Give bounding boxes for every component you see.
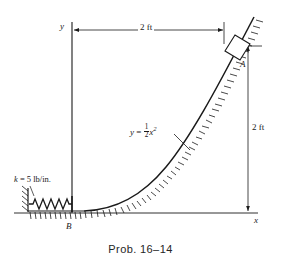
figure-container: y x A B 2 ft 2 ft y = 1 2 x2 k = 5 lb/in… <box>0 0 281 269</box>
point-label-b: B <box>66 222 72 231</box>
vertical-dimension-label: 2 ft <box>250 123 266 132</box>
spring-k-symbol: k <box>14 174 18 184</box>
equation-equals: = <box>136 127 141 137</box>
spring-coil <box>29 199 72 209</box>
spring-equals: = <box>20 174 25 184</box>
equation-exponent: 2 <box>153 125 156 132</box>
curve-equation-label: y = 1 2 x2 <box>130 124 157 140</box>
wall-hatching <box>22 186 28 211</box>
point-label-a: A <box>240 60 246 69</box>
spring-wall <box>22 186 28 212</box>
spring-stiffness-label: k = 5 lb/in. <box>14 175 51 184</box>
horizontal-dimension-label: 2 ft <box>138 23 154 32</box>
y-axis-label: y <box>60 22 64 31</box>
equation-lhs: y <box>130 127 134 137</box>
spring-leader-line <box>30 186 34 196</box>
figure-caption: Prob. 16–14 <box>0 243 281 255</box>
block-at-A <box>225 35 250 60</box>
x-axis-label: x <box>254 216 258 225</box>
ground-support <box>28 211 84 219</box>
spring-value: 5 lb/in. <box>27 174 51 184</box>
